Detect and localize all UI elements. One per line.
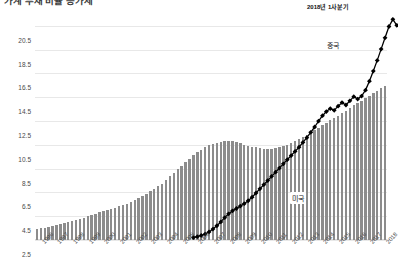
line-marker (379, 47, 384, 52)
y-axis-tick-label: 14.5 (5, 108, 31, 115)
y-axis-tick-label: 18.5 (5, 60, 31, 67)
y-axis-tick-label: 6.5 (5, 203, 31, 210)
y-axis-tick-label: 2.5 (5, 251, 31, 258)
y-axis-tick-label: 20.5 (5, 36, 31, 43)
y-axis-tick-label: 10.5 (5, 155, 31, 162)
line-marker (371, 69, 376, 74)
x-axis-labels: 1996199719981999200020012002200320042005… (35, 241, 387, 269)
y-axis-labels: 2.54.56.58.510.512.514.516.518.520.5 (0, 14, 33, 240)
y-axis-tick-label: 16.5 (5, 84, 31, 91)
annotation-usa: 미국 (290, 192, 306, 204)
y-axis-tick-label: 4.5 (5, 227, 31, 234)
line-marker (387, 24, 392, 29)
annotation-china: 중국 (327, 40, 339, 50)
line-path (193, 19, 398, 237)
annotation-2018-q1: 2018년 1사분기 (307, 2, 349, 11)
line-marker (383, 35, 388, 40)
y-axis-tick-label: 12.5 (5, 132, 31, 139)
line-marker (375, 58, 380, 63)
line-marker (367, 79, 372, 84)
y-axis-tick-label: 8.5 (5, 179, 31, 186)
chart-title: 가계 부채 비율 증가세 (4, 0, 93, 7)
